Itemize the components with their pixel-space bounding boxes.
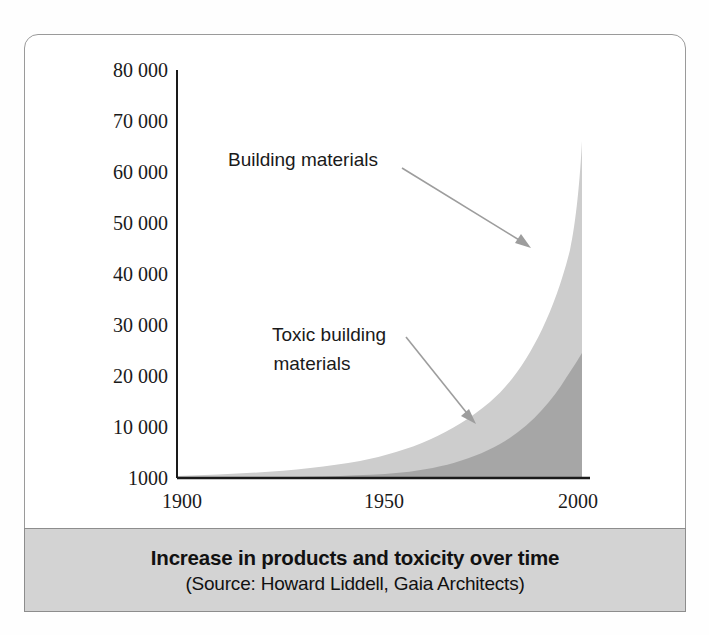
caption-title: Increase in products and toxicity over t… (151, 546, 559, 570)
annotation-label-building-materials: Building materials (228, 149, 378, 170)
y-tick-label-80000: 80 000 (113, 59, 168, 81)
y-tick-label-70000: 70 000 (113, 110, 168, 132)
y-tick-label-50000: 50 000 (113, 212, 168, 234)
annotation-label-toxic-building-materials-line2: materials (273, 353, 350, 374)
annotation-arrow-building-materials (402, 168, 531, 248)
figure-caption: Increase in products and toxicity over t… (24, 528, 686, 612)
annotation-label-toxic-building-materials-line1: Toxic building (272, 324, 386, 345)
series-area-building-materials (177, 141, 582, 478)
y-tick-label-10000: 10 000 (113, 416, 168, 438)
figure-container: 80 000 70 000 60 000 50 000 40 000 30 00… (0, 0, 709, 635)
y-tick-label-40000: 40 000 (113, 263, 168, 285)
x-tick-label-1900: 1900 (162, 490, 202, 512)
annotation-arrow-toxic-building-materials (406, 337, 476, 424)
y-tick-label-30000: 30 000 (113, 314, 168, 336)
caption-source: (Source: Howard Liddell, Gaia Architects… (185, 573, 524, 595)
y-tick-label-60000: 60 000 (113, 161, 168, 183)
x-tick-label-1950: 1950 (364, 490, 404, 512)
y-tick-label-20000: 20 000 (113, 365, 168, 387)
x-tick-label-2000: 2000 (558, 490, 598, 512)
y-tick-label-1000: 1000 (128, 467, 168, 489)
